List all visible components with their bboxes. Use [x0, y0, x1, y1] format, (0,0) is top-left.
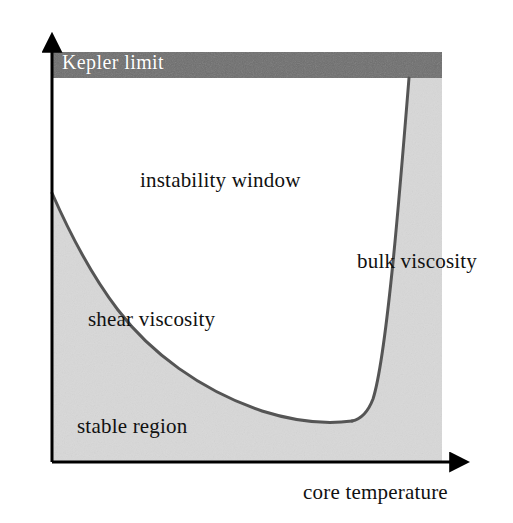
shear-viscosity-label: shear viscosity	[88, 309, 215, 330]
x-axis-label: core temperature	[303, 482, 448, 503]
instability-window-diagram: Kepler limit instability window bulk vis…	[0, 0, 513, 523]
stable-region-label: stable region	[77, 416, 187, 437]
instability-window-label: instability window	[140, 170, 301, 191]
bulk-viscosity-label: bulk viscosity	[357, 251, 477, 272]
kepler-limit-label: Kepler limit	[62, 52, 164, 72]
